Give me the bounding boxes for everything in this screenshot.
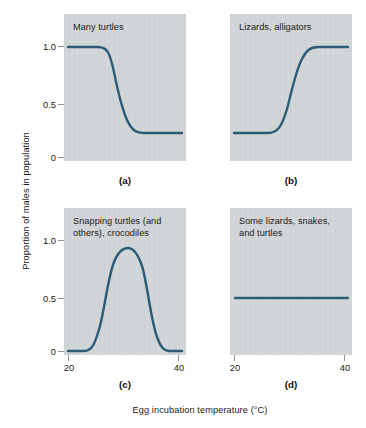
panel-c-curve-path bbox=[68, 248, 182, 351]
y-tick-label-top-1: 1.0 bbox=[22, 41, 56, 52]
x-tick-label-c-20: 20 bbox=[56, 362, 82, 373]
panel-d-curve-svg bbox=[230, 208, 352, 355]
x-tick-label-d-40: 40 bbox=[332, 362, 358, 373]
panel-c-caption: (c) bbox=[64, 379, 186, 390]
panel-a-caption: (a) bbox=[64, 175, 186, 186]
panel-d-caption: (d) bbox=[230, 379, 352, 390]
y-tick-label-top-2: 0.5 bbox=[22, 99, 56, 110]
panel-a: Many turtles bbox=[64, 14, 186, 161]
y-axis-label: Proportion of males in population bbox=[21, 101, 31, 301]
y-tick-label-bottom-3: 0 bbox=[22, 346, 56, 357]
panel-b: Lizards, alligators bbox=[230, 14, 352, 161]
x-tick-mark-c-20 bbox=[68, 355, 69, 361]
y-tick-label-top-3: 0 bbox=[22, 152, 56, 163]
panel-d: Some lizards, snakes, and turtles bbox=[230, 208, 352, 355]
panel-a-curve-path bbox=[68, 47, 182, 133]
x-tick-label-c-40: 40 bbox=[166, 362, 192, 373]
x-tick-mark-d-20 bbox=[234, 355, 235, 361]
x-axis-label: Egg incubation temperature (°C) bbox=[40, 405, 360, 415]
panel-b-curve-svg bbox=[230, 14, 352, 161]
panel-b-caption: (b) bbox=[230, 175, 352, 186]
y-tick-label-bottom-1: 1.0 bbox=[22, 235, 56, 246]
x-tick-mark-c-40 bbox=[178, 355, 179, 361]
panel-c-curve-svg bbox=[64, 208, 186, 355]
panel-b-curve-path bbox=[234, 47, 348, 133]
panel-c: Snapping turtles (and others), crocodile… bbox=[64, 208, 186, 355]
x-tick-label-d-20: 20 bbox=[222, 362, 248, 373]
y-tick-label-bottom-2: 0.5 bbox=[22, 293, 56, 304]
x-tick-mark-d-40 bbox=[344, 355, 345, 361]
figure-container: Proportion of males in population 1.0 0.… bbox=[0, 0, 366, 428]
panel-a-curve-svg bbox=[64, 14, 186, 161]
